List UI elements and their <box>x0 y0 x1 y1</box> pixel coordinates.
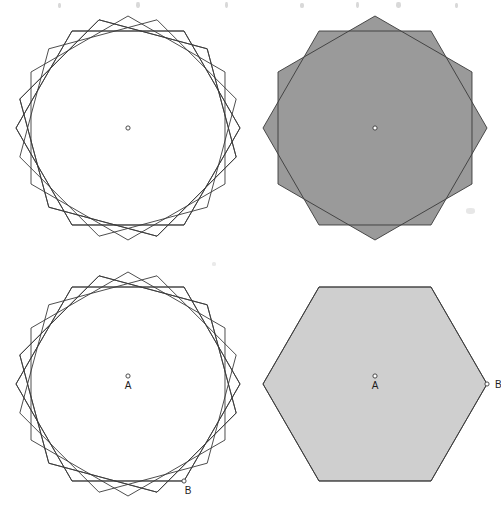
centre-point-marker <box>373 374 377 378</box>
hexagon-rotation-diagram: AB <box>250 256 501 515</box>
centre-point-marker <box>373 126 377 130</box>
centre-point-marker <box>126 126 130 130</box>
centre-point-marker <box>126 374 130 378</box>
vertex-label-B: B <box>185 485 192 496</box>
vertex-label-B: B <box>495 379 501 390</box>
panel-top-left <box>0 0 255 258</box>
centre-label-A: A <box>372 380 379 391</box>
figure-sheet: AB AB <box>0 0 501 515</box>
panel-bottom-right: AB <box>250 256 501 515</box>
panel-bottom-left: AB <box>0 256 255 515</box>
hexagon-rotation-diagram <box>0 0 255 258</box>
vertex-point-marker <box>182 479 186 483</box>
centre-label-A: A <box>125 380 132 391</box>
panel-top-right <box>250 0 501 258</box>
hexagon-rotation-diagram <box>250 0 501 258</box>
hexagon-rotation-diagram: AB <box>0 256 255 515</box>
vertex-point-marker <box>485 382 489 386</box>
